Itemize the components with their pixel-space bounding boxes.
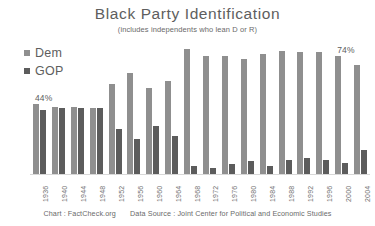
- x-axis-label-1984: 1984: [269, 186, 276, 202]
- bar-dem-2000[interactable]: [335, 56, 341, 174]
- x-axis-label-1952: 1952: [118, 186, 125, 202]
- bar-gop-1988[interactable]: [286, 160, 292, 174]
- bar-dem-1984[interactable]: [260, 54, 266, 174]
- chart-container: Black Party Identification (includes ind…: [0, 0, 375, 226]
- bar-gop-1940[interactable]: [59, 108, 65, 174]
- bar-group: [146, 46, 159, 174]
- bar-dem-1988[interactable]: [279, 51, 285, 174]
- x-axis-label-1940: 1940: [61, 186, 68, 202]
- bar-dem-1972[interactable]: [203, 56, 209, 174]
- bar-group: [354, 46, 367, 174]
- plot-area: [30, 46, 370, 174]
- bar-group: [297, 46, 310, 174]
- x-axis-label-1992: 1992: [307, 186, 314, 202]
- x-axis-label-1936: 1936: [42, 186, 49, 202]
- bar-dem-2004[interactable]: [354, 65, 360, 174]
- bar-dem-1964[interactable]: [165, 81, 171, 174]
- bar-group: [109, 46, 122, 174]
- bar-gop-1992[interactable]: [304, 158, 310, 174]
- x-axis-label-1964: 1964: [175, 186, 182, 202]
- bar-dem-1948[interactable]: [90, 108, 96, 174]
- bar-dem-1944[interactable]: [71, 107, 77, 174]
- bar-group: [279, 46, 292, 174]
- bar-group: [127, 46, 140, 174]
- x-axis-label-1956: 1956: [137, 186, 144, 202]
- bar-gop-1948[interactable]: [97, 108, 103, 174]
- bar-group: [241, 46, 254, 174]
- x-axis-label-1980: 1980: [250, 186, 257, 202]
- x-axis-labels: 1936194019441948195219561960196419681972…: [30, 176, 370, 204]
- bar-dem-1952[interactable]: [109, 84, 115, 174]
- bar-dem-1992[interactable]: [297, 52, 303, 174]
- x-axis-label-1944: 1944: [80, 186, 87, 202]
- bar-value-annotation: 44%: [35, 93, 53, 103]
- chart-subtitle: (includes independents who lean D or R): [0, 25, 375, 34]
- bar-group: [33, 46, 46, 174]
- bar-gop-2000[interactable]: [342, 163, 348, 174]
- bar-dem-1960[interactable]: [146, 88, 152, 174]
- x-axis-label-1948: 1948: [99, 186, 106, 202]
- x-axis-label-1996: 1996: [326, 186, 333, 202]
- bar-group: [260, 46, 273, 174]
- bar-group: [203, 46, 216, 174]
- bar-gop-1968[interactable]: [191, 166, 197, 174]
- bar-group: [184, 46, 197, 174]
- bar-value-annotation: 74%: [337, 45, 355, 55]
- bar-gop-1996[interactable]: [323, 160, 329, 174]
- footer-chart-credit: Chart : FactCheck.org: [43, 209, 115, 218]
- x-axis-label-2004: 2004: [364, 186, 371, 202]
- bar-dem-1940[interactable]: [52, 107, 58, 174]
- bar-group: [71, 46, 84, 174]
- bar-group: [222, 46, 235, 174]
- bar-dem-1968[interactable]: [184, 49, 190, 174]
- bar-gop-1944[interactable]: [78, 108, 84, 174]
- bar-gop-1952[interactable]: [116, 129, 122, 174]
- bar-dem-1936[interactable]: [33, 104, 39, 174]
- bar-gop-2004[interactable]: [361, 150, 367, 174]
- bar-dem-1976[interactable]: [222, 56, 228, 174]
- bar-dem-1996[interactable]: [316, 52, 322, 174]
- x-axis-label-1968: 1968: [194, 186, 201, 202]
- chart-title: Black Party Identification: [0, 5, 375, 23]
- bar-group: [316, 46, 329, 174]
- axis-baseline: [30, 174, 370, 175]
- x-axis-label-1988: 1988: [288, 186, 295, 202]
- x-axis-label-1976: 1976: [231, 186, 238, 202]
- bar-dem-1980[interactable]: [241, 59, 247, 174]
- chart-footer: Chart : FactCheck.org Data Source : Join…: [0, 209, 375, 218]
- bar-gop-1936[interactable]: [40, 110, 46, 174]
- bar-group: [52, 46, 65, 174]
- x-axis-label-1960: 1960: [156, 186, 163, 202]
- bar-group: [165, 46, 178, 174]
- x-axis-label-1972: 1972: [212, 186, 219, 202]
- footer-data-source: Data Source : Joint Center for Political…: [130, 209, 331, 218]
- bar-gop-1980[interactable]: [248, 161, 254, 174]
- bar-group: [90, 46, 103, 174]
- bar-dem-1956[interactable]: [127, 73, 133, 174]
- bar-gop-1956[interactable]: [134, 139, 140, 174]
- bar-gop-1960[interactable]: [153, 126, 159, 174]
- bar-gop-1984[interactable]: [267, 166, 273, 174]
- bar-group: [335, 46, 348, 174]
- bar-gop-1976[interactable]: [229, 164, 235, 174]
- bar-gop-1964[interactable]: [172, 136, 178, 174]
- x-axis-label-2000: 2000: [345, 186, 352, 202]
